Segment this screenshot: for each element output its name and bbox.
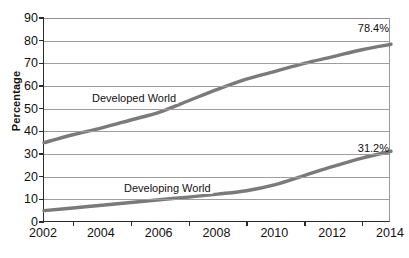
gridline (44, 41, 389, 42)
gridline (44, 86, 389, 87)
x-tick-mark (189, 221, 190, 226)
y-tick-label: 10 (10, 192, 38, 206)
series-inline-label: Developing World (122, 182, 213, 194)
series-inline-label: Developed World (90, 92, 178, 104)
y-tick-label: 30 (10, 147, 38, 161)
gridline (44, 199, 389, 200)
series-end-value-label: 78.4% (358, 22, 389, 34)
gridline (44, 63, 389, 64)
y-axis-tick-labels: 0102030405060708090 (6, 0, 38, 258)
x-tick-label: 2008 (203, 226, 231, 240)
gridline (44, 109, 389, 110)
x-tick-label: 2010 (260, 226, 288, 240)
x-tick-label: 2014 (376, 226, 404, 240)
y-tick-label: 20 (10, 170, 38, 184)
x-tick-label: 2012 (318, 226, 346, 240)
y-tick-label: 80 (10, 34, 38, 48)
y-tick-mark (39, 131, 44, 133)
x-tick-label: 2002 (29, 226, 57, 240)
x-tick-mark (362, 221, 363, 226)
x-tick-mark (246, 221, 247, 226)
y-tick-mark (39, 108, 44, 110)
gridline (44, 177, 389, 178)
x-tick-label: 2004 (87, 226, 115, 240)
y-tick-label: 70 (10, 56, 38, 70)
y-tick-mark (39, 176, 44, 178)
gridline (44, 18, 389, 19)
y-tick-label: 40 (10, 124, 38, 138)
x-tick-label: 2006 (145, 226, 173, 240)
y-tick-mark (39, 221, 44, 223)
y-tick-mark (39, 40, 44, 42)
series-lines (44, 18, 391, 222)
x-tick-mark (73, 221, 74, 226)
y-tick-mark (39, 153, 44, 155)
x-tick-mark (304, 221, 305, 226)
gridline (44, 131, 389, 132)
y-tick-mark (39, 199, 44, 201)
series-line (44, 151, 391, 210)
line-chart: Percentage 0102030405060708090 200220042… (0, 0, 409, 258)
y-tick-label: 50 (10, 102, 38, 116)
plot-area (43, 18, 390, 222)
gridline (44, 154, 389, 155)
y-tick-mark (39, 85, 44, 87)
y-tick-mark (39, 63, 44, 65)
y-tick-label: 90 (10, 11, 38, 25)
y-tick-label: 60 (10, 79, 38, 93)
x-tick-mark (131, 221, 132, 226)
series-end-value-label: 31.2% (358, 142, 389, 154)
y-tick-mark (39, 17, 44, 19)
